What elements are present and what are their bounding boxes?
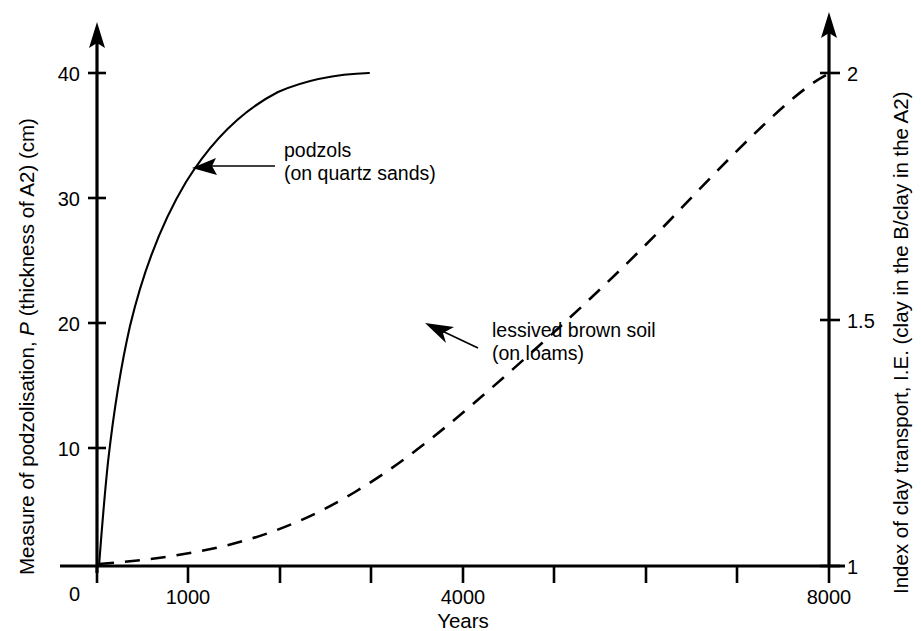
lessived-annotation-line1: lessived brown soil: [492, 319, 656, 341]
x-axis-title: Years: [437, 609, 489, 631]
left-tick-label-40: 40: [58, 63, 80, 85]
x-tick-label-8000: 8000: [807, 586, 852, 608]
chart-svg: 40 30 20 10 0 Measure of podzolisation, …: [0, 0, 921, 631]
left-axis-title-prefix: Measure of podzolisation,: [15, 336, 38, 575]
right-axis-title-text: Index of clay transport, I.E. (clay in t…: [889, 92, 912, 595]
left-axis-title-suffix: (thickness of A2) (cm): [15, 118, 38, 322]
x-axis: 1000 4000 8000 Years: [60, 566, 851, 631]
lessived-brown-soil-curve: [99, 74, 828, 564]
right-tick-label-1: 1: [847, 556, 858, 578]
podzols-annotation-line2: (on quartz sands): [284, 162, 436, 184]
left-tick-label-30: 30: [58, 188, 80, 210]
x-tick-label-4000: 4000: [441, 586, 486, 608]
left-tick-label-10: 10: [58, 438, 80, 460]
left-axis-title: Measure of podzolisation, P (thickness o…: [15, 118, 38, 575]
lessived-arrowhead-icon: [425, 323, 454, 343]
annotation-lessived-brown-soil: lessived brown soil (on loams): [425, 319, 656, 364]
right-tick-label-2: 2: [847, 63, 858, 85]
lessived-annotation-line2: (on loams): [492, 342, 584, 364]
x-tick-label-1000: 1000: [166, 586, 211, 608]
left-tick-label-20: 20: [58, 313, 80, 335]
right-tick-label-1-5: 1.5: [847, 310, 875, 332]
left-tick-label-0: 0: [69, 583, 80, 605]
right-y-axis: 2 1.5 1: [820, 12, 875, 578]
podzols-annotation-line1: podzols: [284, 139, 351, 161]
chart-figure: 40 30 20 10 0 Measure of podzolisation, …: [0, 0, 921, 631]
annotation-podzols: podzols (on quartz sands): [192, 139, 436, 184]
left-axis-title-symbol: P: [15, 322, 38, 336]
right-axis-title: Index of clay transport, I.E. (clay in t…: [889, 92, 912, 595]
svg-text:Measure of podzolisation, P (t: Measure of podzolisation, P (thickness o…: [15, 118, 38, 575]
left-y-axis: 40 30 20 10 0: [58, 22, 106, 605]
lessived-leader-line: [440, 330, 478, 348]
series-lessived-brown-soil: [99, 74, 828, 564]
